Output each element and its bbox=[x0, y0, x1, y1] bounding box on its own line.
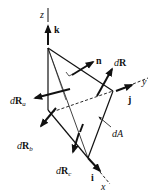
dRc-vector-arrow bbox=[73, 133, 79, 152]
z-axis-label: z bbox=[39, 9, 44, 20]
dR-R: R bbox=[119, 57, 127, 68]
dRc-label: dRc bbox=[56, 165, 72, 178]
i-label: i bbox=[91, 172, 94, 183]
j-vector-arrow bbox=[116, 85, 132, 91]
edge-right-to-bottom bbox=[88, 91, 113, 158]
tetrahedron-diagram: z k n dR j y dRa dRb dRc dA i x bbox=[0, 0, 155, 191]
dRa-label: dRa bbox=[10, 95, 26, 108]
dRc-tail-segment bbox=[80, 124, 83, 132]
x-axis-label: x bbox=[100, 181, 106, 191]
n-vector-arrow bbox=[72, 62, 93, 75]
edge-left-to-right-hidden bbox=[52, 91, 113, 112]
edge-left-to-bottom bbox=[48, 110, 88, 158]
dRb-label: dRb bbox=[17, 140, 33, 153]
j-label: j bbox=[127, 94, 131, 105]
dR-label: dR bbox=[114, 57, 127, 68]
dA-label: dA bbox=[112, 128, 124, 139]
i-vector-arrow bbox=[88, 158, 100, 171]
k-label: k bbox=[54, 24, 60, 35]
y-axis-label: y bbox=[141, 76, 147, 87]
n-label: n bbox=[96, 55, 102, 66]
